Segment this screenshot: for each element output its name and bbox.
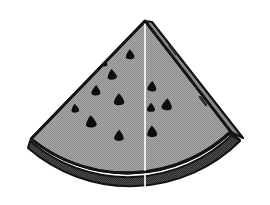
image-canvas: Watermelon Wedge [0,0,270,205]
watermelon-wedge-illustration [0,0,270,205]
